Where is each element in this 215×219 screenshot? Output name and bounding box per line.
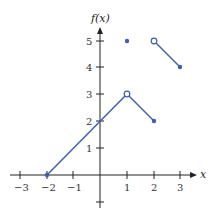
- x-tick-label: 3: [177, 182, 183, 193]
- y-tick-label: 5: [86, 36, 92, 47]
- x-tick-label: 1: [124, 182, 130, 193]
- open-point-2-5: [151, 38, 157, 44]
- closed-point-1-5: [125, 39, 129, 43]
- closed-point-3-4: [178, 65, 182, 69]
- open-point-1-3: [124, 91, 130, 97]
- x-tick-label: −3: [14, 182, 29, 193]
- function-plot: [45, 38, 182, 177]
- x-tick-label: −1: [67, 182, 82, 193]
- y-axis-arrow-icon: [97, 27, 103, 34]
- x-axis-label: x: [200, 168, 207, 181]
- y-tick-label: 2: [86, 116, 92, 127]
- y-axis-label: f(x): [90, 12, 110, 25]
- y-tick-label: 1: [86, 143, 92, 154]
- x-tick-label: −2: [41, 182, 56, 193]
- segment-3: [154, 41, 180, 67]
- y-tick-labels: 1 2 3 4 5: [86, 36, 92, 154]
- y-tick-label: 3: [86, 89, 92, 100]
- x-tick-labels: −3 −2 −1 1 2 3: [14, 182, 183, 193]
- segment-1: [47, 94, 127, 175]
- y-tick-label: 4: [86, 62, 92, 73]
- closed-point-neg2-0: [45, 173, 49, 177]
- x-axis-arrow-icon: [190, 172, 197, 178]
- closed-point-2-2: [152, 119, 156, 123]
- x-tick-label: 2: [151, 182, 157, 193]
- function-graph: x f(x) −3 −2 −1 1 2 3 1 2 3 4 5: [0, 0, 215, 219]
- segment-2: [127, 94, 154, 121]
